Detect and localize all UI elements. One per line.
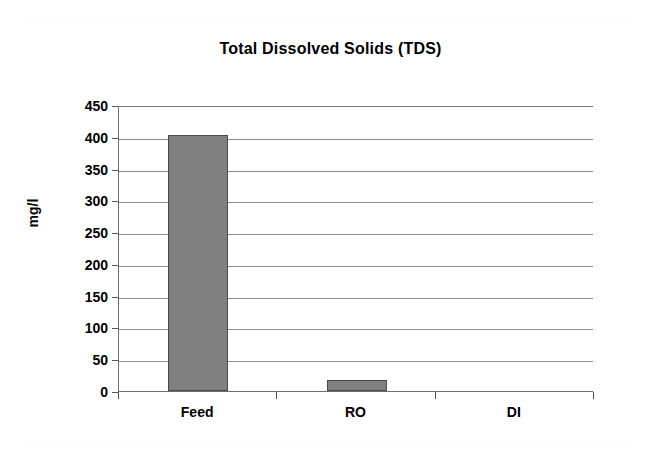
y-axis-tick-label-wrap: 100: [36, 320, 108, 336]
bar-feed: [168, 135, 228, 391]
y-axis-tick-label-wrap: 350: [36, 162, 108, 178]
y-axis-tick-label-wrap: 150: [36, 289, 108, 305]
y-axis-tick-label-wrap: 50: [36, 352, 108, 368]
y-axis-tick-label-wrap: 300: [36, 193, 108, 209]
y-axis-tick-label: 350: [46, 162, 108, 178]
y-axis-tick-label: 300: [46, 193, 108, 209]
x-axis-label-feed: Feed: [137, 404, 257, 420]
y-axis-tick-label-wrap: 0: [36, 384, 108, 400]
y-axis-tick-label: 200: [46, 257, 108, 273]
x-axis-tick: [118, 392, 119, 399]
bar-ro: [327, 380, 387, 391]
y-axis-tick-label: 100: [46, 320, 108, 336]
y-axis-tick-label-wrap: 450: [36, 98, 108, 114]
y-axis-tick-label: 400: [46, 130, 108, 146]
y-axis-tick-label: 250: [46, 225, 108, 241]
x-axis-tick: [276, 392, 277, 399]
y-axis-tick-label: 50: [46, 352, 108, 368]
y-axis-tick-label-wrap: 200: [36, 257, 108, 273]
y-axis-tick-label: 0: [46, 384, 108, 400]
y-axis-tick-label-wrap: 400: [36, 130, 108, 146]
chart-title: Total Dissolved Solids (TDS): [0, 40, 661, 58]
y-axis-tick-label-wrap: 250: [36, 225, 108, 241]
x-axis-tick: [593, 392, 594, 399]
x-axis-label-ro: RO: [296, 404, 416, 420]
y-axis-tick-label: 150: [46, 289, 108, 305]
chart-figure: Total Dissolved Solids (TDS) mg/l 050100…: [0, 0, 661, 475]
x-axis-label-di: DI: [454, 404, 574, 420]
y-axis-tick-label: 450: [46, 98, 108, 114]
y-axis-label: mg/l: [25, 168, 41, 258]
plot-area: [118, 106, 593, 392]
x-axis-tick: [435, 392, 436, 399]
